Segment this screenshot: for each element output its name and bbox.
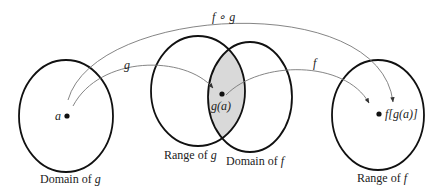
label-range-of-f: Range of f (357, 171, 409, 185)
label-g-of-a: g(a) (211, 99, 231, 113)
label-g-arrow: g (124, 58, 130, 72)
point-g-of-a (219, 91, 224, 96)
label-range-of-g: Range of g (164, 148, 217, 162)
point-a (64, 113, 69, 118)
point-f-of-g-of-a (376, 111, 381, 116)
label-f-of-g-of-a: f[g(a)] (385, 107, 418, 121)
label-domain-of-g: Domain of g (40, 172, 101, 186)
label-composite-arrow: f ∘ g (212, 10, 235, 24)
composition-diagram: a g(a) f[g(a)] g f f ∘ g Domain of g Ran… (0, 0, 445, 191)
label-f-arrow: f (313, 56, 318, 70)
label-domain-of-f: Domain of f (226, 154, 286, 168)
label-a: a (55, 109, 61, 123)
